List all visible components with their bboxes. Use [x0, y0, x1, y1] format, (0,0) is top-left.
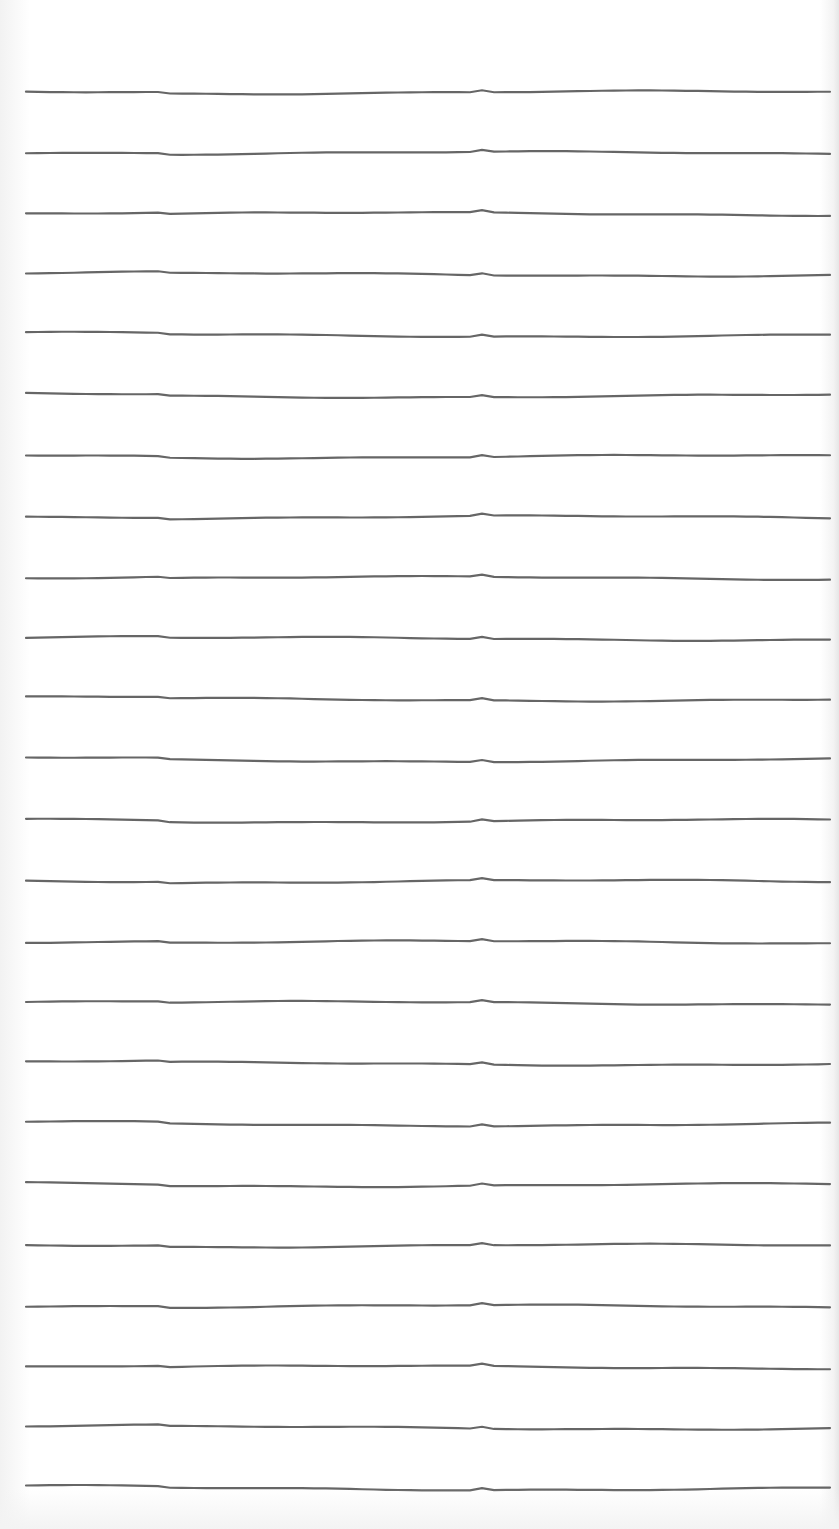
ruled-line	[26, 878, 830, 883]
ruled-line	[26, 393, 830, 398]
ruled-line	[26, 939, 830, 943]
ruled-lines	[0, 0, 839, 1529]
ruled-line	[26, 90, 830, 94]
ruled-line	[26, 332, 830, 337]
ruled-line	[26, 455, 830, 459]
ruled-line	[26, 1061, 830, 1066]
ruled-line	[26, 150, 830, 155]
paper-right-edge	[833, 0, 839, 1529]
ruled-line	[26, 1424, 830, 1429]
ruled-line	[26, 1364, 830, 1370]
ruled-line	[26, 271, 830, 276]
ruled-line	[26, 636, 830, 641]
ruled-line	[26, 1182, 830, 1187]
ruled-line	[26, 757, 830, 762]
ruled-line	[26, 1485, 830, 1490]
ruled-line	[26, 1121, 830, 1126]
ruled-line	[26, 696, 830, 701]
ruled-line	[26, 210, 830, 216]
ruled-line	[26, 819, 830, 823]
ruled-line	[26, 1000, 830, 1004]
lined-paper-sheet	[0, 0, 839, 1529]
ruled-line	[26, 1243, 830, 1247]
ruled-line	[26, 1303, 830, 1308]
ruled-line	[26, 575, 830, 580]
ruled-line	[26, 514, 830, 520]
